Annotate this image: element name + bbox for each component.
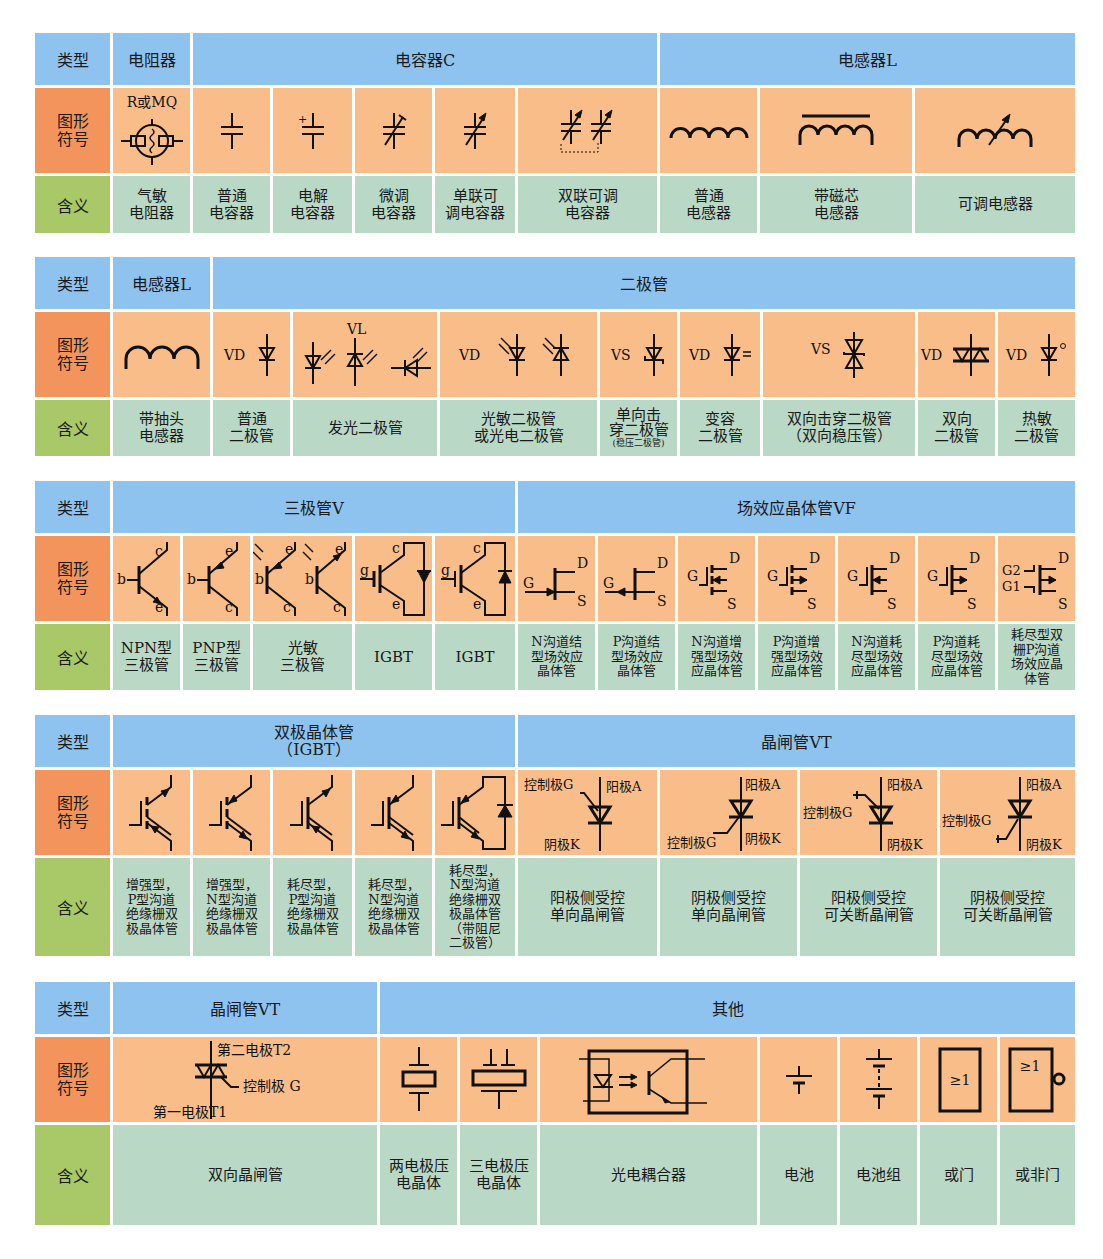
header-inductor: 电感器L	[660, 33, 1075, 85]
symbol-row: 图形 符号	[35, 770, 1075, 855]
meaning-cell: 阴极侧受控 单向晶闸管	[660, 858, 797, 956]
symbol-gto-anode-gate: 阳极A 控制极G 阴极K	[800, 770, 937, 855]
symbol-variable-inductor	[915, 88, 1075, 173]
meaning-row: 含义 气敏 电阻器 普通 电容器 电解 电容器 微调 电容器 单联可 调电容器 …	[35, 176, 1075, 233]
meaning-cell: 耗尽型， P型沟道 绝缘栅双 极晶体管	[273, 858, 352, 956]
section-triac-others: 类型 晶闸管VT 其他 图形 符号 第二电极T2 控制极 G 第一电极T1	[35, 982, 1075, 1225]
meaning-cell: 单向击 穿二极管 (稳压二极管)	[600, 400, 677, 456]
meaning-cell: 热敏 二极管	[998, 400, 1075, 456]
mosfet-icon: G D S	[927, 547, 987, 611]
igbt-icon: g c e	[439, 539, 511, 619]
symbol-diode: VD	[213, 312, 290, 397]
svg-text:S: S	[807, 596, 817, 612]
meaning-cell: 气敏 电阻器	[113, 176, 190, 233]
symbol-gto-cathode-gate: 阳极A 控制极G 阴极K	[940, 770, 1075, 855]
type-label: 类型	[35, 33, 110, 85]
nor-gate-icon: ≥1	[1006, 1047, 1070, 1113]
svg-text:VS: VS	[810, 341, 831, 357]
meaning-label: 含义	[35, 176, 110, 233]
symbol-igbt-enh-p	[113, 770, 190, 855]
svg-text:b: b	[187, 571, 196, 587]
svg-text:阳极A: 阳极A	[606, 779, 642, 794]
symbol-dual-gate-mosfet: G2 G1 D S	[998, 536, 1075, 621]
header-resistor: 电阻器	[113, 33, 190, 85]
meaning-cell: 增强型， N型沟道 绝缘栅双 极晶体管	[193, 858, 270, 956]
svg-text:D: D	[969, 550, 980, 566]
meaning-row: 含义 增强型， P型沟道 绝缘栅双 极晶体管 增强型， N型沟道 绝缘栅双 极晶…	[35, 858, 1075, 956]
varactor-diode-icon: VD	[687, 332, 753, 378]
svg-text:G: G	[847, 568, 858, 584]
svg-text:D: D	[809, 550, 820, 566]
igbt-icon: g c e	[358, 539, 430, 619]
symbol-battery-pack	[840, 1037, 917, 1122]
symbol-igbt-dep-n	[355, 770, 432, 855]
symbol-inductor	[660, 88, 757, 173]
gto-thyristor-icon: 阳极A 控制极G 阴极K	[801, 773, 936, 853]
optocoupler-icon	[579, 1047, 719, 1113]
svg-text:阳极A: 阳极A	[887, 777, 923, 792]
meaning-cell: 光敏 三极管	[253, 624, 352, 690]
symbol-two-electrode-crystal	[380, 1037, 457, 1122]
symbol-n-enh-mosfet: G D S	[678, 536, 755, 621]
svg-text:阴极K: 阴极K	[1026, 837, 1062, 852]
svg-text:控制极G: 控制极G	[667, 835, 716, 850]
battery-icon	[784, 1060, 814, 1100]
symbol-gas-sensitive-resistor: R或MQ	[113, 88, 190, 173]
meaning-cell: 耗尽型， N型沟道 绝缘栅双 极晶体管	[355, 858, 432, 956]
symbol-dual-variable-capacitor	[518, 88, 657, 173]
header-capacitor: 电容器C	[193, 33, 657, 85]
symbol-photodiode: VD	[440, 312, 597, 397]
svg-text:控制极G: 控制极G	[803, 805, 852, 820]
symbol-capacitor	[193, 88, 270, 173]
symbol-thermal-diode: VD	[998, 312, 1075, 397]
meaning-cell: 单联可 调电容器	[435, 176, 515, 233]
svg-text:g: g	[441, 562, 450, 578]
igbt-icon	[207, 773, 257, 853]
mosfet-icon: G D S	[687, 547, 747, 611]
meaning-cell: P沟道结 型场效应 晶体管	[598, 624, 675, 690]
meaning-cell: 或门	[920, 1125, 997, 1225]
meaning-cell: 阳极侧受控 单向晶闸管	[518, 858, 657, 956]
type-row: 类型 电阻器 电容器C 电感器L	[35, 33, 1075, 85]
symbol-varactor-diode: VD	[680, 312, 760, 397]
photodiode-icon: VD	[459, 332, 579, 378]
symbol-or-gate: ≥1	[920, 1037, 997, 1122]
igbt-diode-icon	[439, 773, 511, 853]
diode-icon: VD	[222, 332, 282, 378]
meaning-cell: 带抽头 电感器	[113, 400, 210, 456]
meaning-cell: 耗尽型， N型沟道 绝缘栅双 极晶体管 （带阻尼 二极管）	[435, 858, 515, 956]
meaning-cell: 双向 二极管	[918, 400, 995, 456]
svg-text:第二电极T2: 第二电极T2	[217, 1042, 291, 1058]
meaning-cell: 两电极压 电晶体	[380, 1125, 457, 1225]
crystal-icon	[469, 1045, 529, 1115]
symbol-electrolytic-capacitor: +	[273, 88, 352, 173]
meaning-cell: 双向晶闸管	[113, 1125, 377, 1225]
symbol-label: 图形 符号	[35, 1037, 110, 1122]
meaning-cell: 阴极侧受控 可关断晶闸管	[940, 858, 1075, 956]
svg-text:控制极G: 控制极G	[942, 813, 991, 828]
svg-text:G: G	[687, 568, 698, 584]
capacitor-icon	[217, 111, 247, 151]
svg-text:g: g	[360, 562, 369, 578]
meaning-cell: IGBT	[355, 624, 432, 690]
symbol-nor-gate: ≥1	[1000, 1037, 1075, 1122]
svg-text:G2: G2	[1002, 563, 1021, 578]
meaning-cell: 带磁芯 电感器	[760, 176, 912, 233]
bidirectional-zener-icon: VS	[809, 330, 869, 380]
svg-text:S: S	[887, 596, 897, 612]
igbt-icon	[369, 773, 419, 853]
npn-transistor-icon: b c e	[117, 540, 177, 618]
symbol-igbt-enh-n	[193, 770, 270, 855]
svg-text:阴极K: 阴极K	[544, 837, 580, 852]
symbol-igbt-dep-n-diode	[435, 770, 515, 855]
meaning-cell: 普通 电容器	[193, 176, 270, 233]
symbol-three-electrode-crystal	[460, 1037, 537, 1122]
jfet-icon: G D S	[523, 548, 591, 610]
meaning-cell: 光敏二极管 或光电二极管	[440, 400, 597, 456]
symbol-label: 图形 符号	[35, 88, 110, 173]
meaning-cell: 普通 二极管	[213, 400, 290, 456]
meaning-cell: 发光二极管	[293, 400, 437, 456]
meaning-cell: 或非门	[1000, 1125, 1075, 1225]
mosfet-icon: G D S	[767, 547, 827, 611]
trimmer-capacitor-icon	[379, 111, 409, 151]
